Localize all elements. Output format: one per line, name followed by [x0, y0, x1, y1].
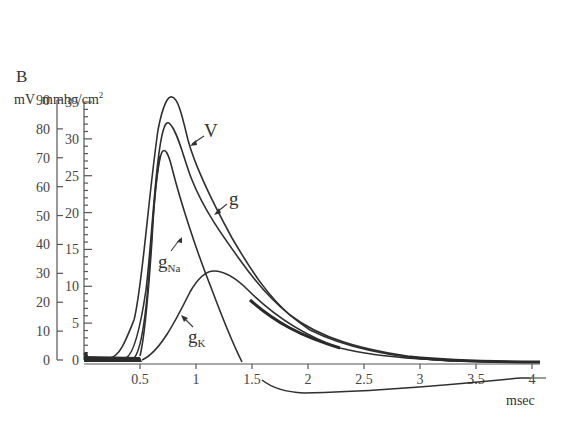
left-axis-mv: 0102030405060708090: [36, 93, 63, 368]
left-tick-label: 40: [36, 237, 50, 252]
x-axis-time: 0.511.522.533.54: [84, 364, 540, 387]
x-tick-label: 0.5: [131, 372, 149, 387]
arrow-v-head: [190, 140, 197, 146]
left-tick-label: 50: [36, 209, 50, 224]
left-axis-unit: mV: [14, 92, 35, 107]
left-tick-label: 0: [43, 353, 50, 368]
label-gna: gNa: [158, 251, 180, 274]
left-tick-label: 20: [36, 295, 50, 310]
x-axis-unit: msec: [506, 393, 535, 408]
right-tick-label: 15: [65, 242, 79, 257]
right-axis-conductance: 05101520253035: [65, 95, 92, 368]
right-tick-label: 0: [72, 353, 79, 368]
right-tick-label: 20: [65, 206, 79, 221]
left-tick-label: 80: [36, 122, 50, 137]
left-tick-label: 60: [36, 180, 50, 195]
right-tick-label: 25: [65, 169, 79, 184]
x-tick-label: 1: [193, 372, 200, 387]
x-tick-label: 2: [305, 372, 312, 387]
x-tick-label: 3.5: [467, 372, 485, 387]
x-tick-label: 4: [529, 372, 536, 387]
left-tick-label: 30: [36, 266, 50, 281]
left-tick-label: 90: [36, 93, 50, 108]
panel-label: B: [16, 67, 27, 86]
right-tick-label: 30: [65, 132, 79, 147]
right-tick-label: 10: [65, 279, 79, 294]
right-tick-label: 35: [65, 95, 79, 110]
label-gk: gK: [188, 326, 206, 349]
label-v: V: [204, 120, 218, 141]
left-tick-label: 10: [36, 324, 50, 339]
x-tick-label: 1.5: [243, 372, 261, 387]
tail-merge-2: [410, 357, 540, 362]
x-tick-label: 2.5: [355, 372, 373, 387]
label-g: g: [229, 188, 239, 209]
arrow-gna-head: [177, 237, 182, 243]
right-tick-label: 5: [72, 316, 79, 331]
action-potential-chart: B mV mmho/cm2 0102030405060708090 051015…: [0, 0, 578, 434]
x-tick-label: 3: [417, 372, 424, 387]
curve-v-undershoot: [262, 378, 530, 393]
tail-merge-1: [250, 300, 340, 348]
left-tick-label: 70: [36, 151, 50, 166]
